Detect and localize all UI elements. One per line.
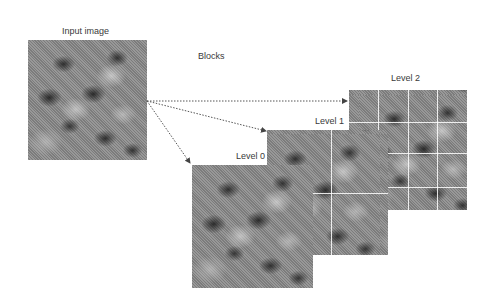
arrows-layer [0,0,495,305]
arrow-to-level-0 [147,101,190,163]
